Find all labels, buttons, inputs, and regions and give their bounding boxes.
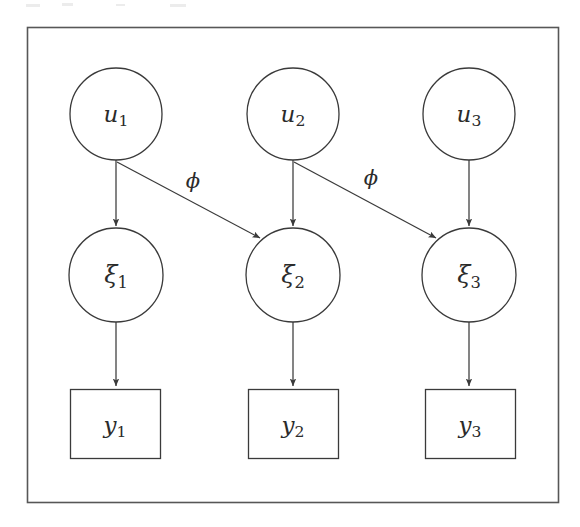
- node-xi3-subscript: 3: [470, 273, 480, 292]
- node-y1-symbol: y: [103, 412, 118, 438]
- scan-artifact: [116, 4, 125, 6]
- node-xi2[interactable]: ξ2: [246, 228, 340, 322]
- diagram-root: u1 u2 u3 ξ1 ξ2: [0, 0, 580, 527]
- node-y2-subscript: 2: [295, 422, 305, 441]
- node-u1[interactable]: u1: [70, 68, 162, 160]
- node-u1-subscript: 1: [118, 111, 128, 130]
- node-u2[interactable]: u2: [247, 68, 339, 160]
- scan-artifact: [62, 3, 73, 6]
- node-u2-subscript: 2: [295, 111, 305, 130]
- node-y3[interactable]: y3: [426, 390, 516, 459]
- edge-label-phi-u2-xi3: ϕ: [364, 166, 378, 190]
- node-y2-symbol: y: [281, 412, 296, 438]
- node-u3-subscript: 3: [471, 111, 481, 130]
- node-u1-symbol: u: [104, 101, 119, 127]
- node-xi1[interactable]: ξ1: [69, 228, 163, 322]
- scan-artifact: [170, 4, 186, 7]
- node-y1[interactable]: y1: [71, 390, 161, 459]
- path-diagram-canvas: u1 u2 u3 ξ1 ξ2: [0, 0, 580, 527]
- scan-artifact: [26, 4, 40, 7]
- node-u3[interactable]: u3: [423, 68, 515, 160]
- edge-label-phi-u1-xi2: ϕ: [186, 169, 200, 193]
- node-xi2-subscript: 2: [294, 273, 304, 292]
- node-xi3[interactable]: ξ3: [422, 228, 516, 322]
- node-u3-symbol: u: [457, 101, 472, 127]
- node-xi1-subscript: 1: [117, 273, 127, 292]
- node-y3-symbol: y: [458, 412, 473, 438]
- node-y1-subscript: 1: [117, 422, 127, 441]
- node-y2[interactable]: y2: [249, 390, 339, 459]
- node-y3-subscript: 3: [472, 422, 482, 441]
- node-u2-symbol: u: [281, 101, 296, 127]
